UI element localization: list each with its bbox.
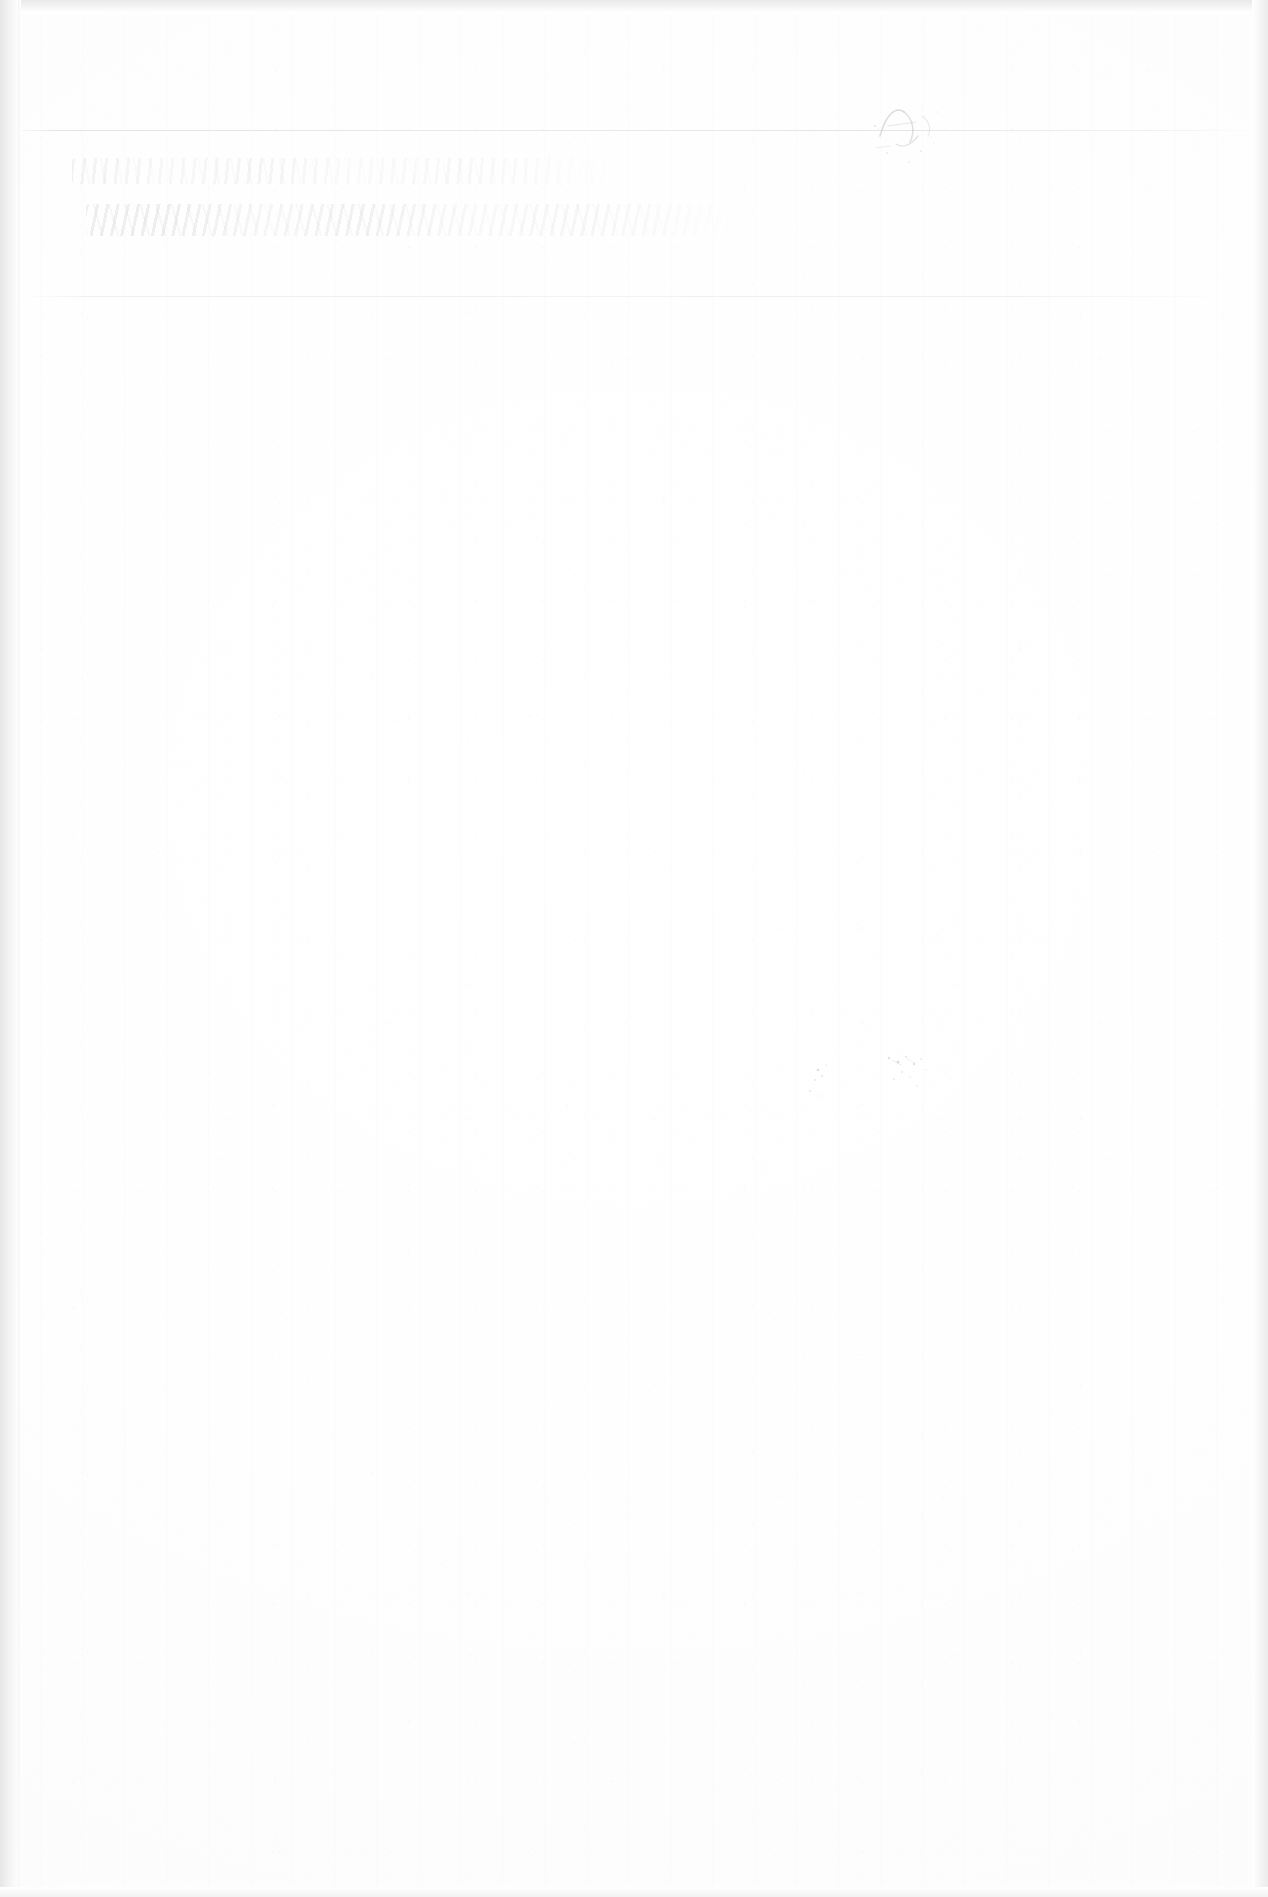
page-gutter-crease [18, 0, 21, 1897]
ink-specks-mid-right [788, 1046, 948, 1108]
illegible-handwriting-line-two [86, 204, 736, 236]
illegible-handwriting-line-one [72, 158, 617, 184]
page-sheet: Blank scanned sheet of off-white paper w… [0, 0, 1268, 1897]
faint-horizontal-rule-lower [24, 296, 1234, 297]
scan-banding-overlay [0, 0, 1268, 1897]
scan-edge-bottom [0, 1887, 1268, 1897]
scan-edge-right [1252, 0, 1268, 1897]
scan-edge-top [0, 0, 1268, 13]
scanned-page-viewport: Blank scanned sheet of off-white paper w… [0, 0, 1268, 1897]
ink-mark-top-right [866, 96, 946, 172]
scan-edge-left [0, 0, 20, 1897]
faint-horizontal-rule-upper [10, 130, 1255, 131]
ink-specks-mid-right-dots [788, 1046, 948, 1108]
ink-mark-top-right-strokes [866, 96, 946, 172]
paper-grain-overlay [0, 0, 1268, 1897]
